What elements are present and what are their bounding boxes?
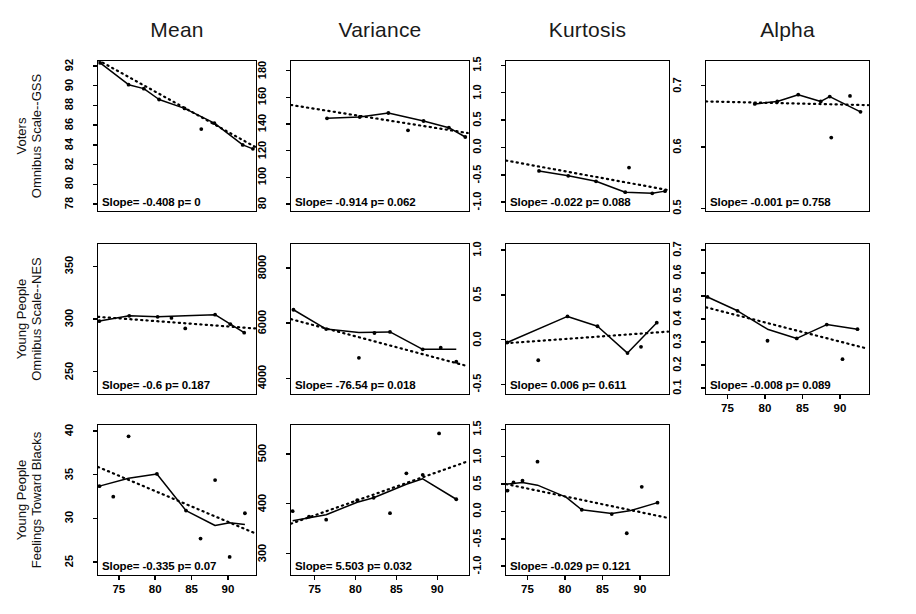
panel-kurtosis-row1[interactable]: Slope= 0.006 p= 0.611 [505, 243, 670, 395]
data-point [212, 121, 216, 125]
panel-kurtosis-row2[interactable]: Slope= -0.029 p= 0.121 [505, 424, 670, 576]
y-tick-mark [501, 119, 505, 120]
data-point [626, 351, 630, 355]
data-point [656, 501, 660, 505]
data-point [213, 313, 217, 317]
y-tick-label: 180 [256, 50, 268, 90]
y-tick-label: 0.5 [671, 187, 683, 227]
data-point [422, 119, 426, 123]
panel-variance-row2[interactable]: Slope= 5.503 p= 0.032 [290, 424, 470, 576]
smoothed-line [99, 474, 244, 526]
y-tick-mark [501, 339, 505, 340]
y-tick-mark [93, 65, 97, 66]
data-point [421, 473, 425, 477]
data-point [127, 83, 131, 87]
y-tick-mark [93, 371, 97, 372]
data-point [856, 327, 860, 331]
data-point [127, 314, 131, 318]
panel-mean-row2[interactable]: Slope= -0.335 p= 0.07 [97, 424, 257, 576]
y-tick-mark [701, 318, 705, 319]
y-tick-mark [701, 249, 705, 250]
y-tick-mark [286, 553, 290, 554]
regression-line [98, 61, 255, 147]
y-tick-label: 400 [256, 483, 268, 523]
plot-area [706, 61, 871, 213]
data-point [454, 497, 458, 501]
data-point [406, 128, 410, 132]
data-point [506, 489, 509, 493]
data-point [142, 87, 146, 91]
y-tick-mark [701, 208, 705, 209]
panel-variance-row1[interactable]: Slope= -76.54 p= 0.018 [290, 243, 470, 395]
x-tick-mark [355, 576, 356, 580]
regression-line [291, 105, 468, 133]
x-tick-label: 80 [749, 402, 781, 414]
plot-area [706, 244, 871, 396]
y-tick-mark [286, 97, 290, 98]
data-point [156, 315, 160, 319]
y-tick-label: -0.5 [471, 363, 483, 403]
data-point [439, 346, 443, 350]
data-point [111, 495, 115, 499]
slope-annotation: Slope= -0.6 p= 0.187 [102, 379, 210, 391]
y-tick-mark [286, 453, 290, 454]
y-tick-mark [286, 378, 290, 379]
y-tick-label: 30 [63, 497, 75, 537]
panel-variance-row0[interactable]: Slope= -0.914 p= 0.062 [290, 60, 470, 212]
data-point [537, 169, 541, 173]
data-point [292, 308, 296, 312]
plot-area [291, 425, 471, 577]
y-tick-mark [501, 456, 505, 457]
regression-line [291, 461, 468, 523]
panel-alpha-row1[interactable]: Slope= -0.008 p= 0.089 [705, 243, 870, 395]
y-tick-mark [93, 430, 97, 431]
x-tick-label: 90 [824, 402, 856, 414]
data-point [841, 357, 845, 361]
data-point [825, 323, 829, 327]
smoothed-line [327, 113, 465, 137]
x-tick-mark [437, 576, 438, 580]
data-point [421, 347, 425, 351]
data-point [228, 555, 232, 559]
y-tick-mark [93, 124, 97, 125]
y-tick-label: 0.7 [671, 229, 683, 269]
panel-alpha-row0[interactable]: Slope= -0.001 p= 0.758 [705, 60, 870, 212]
data-point [594, 179, 598, 183]
x-tick-mark [639, 576, 640, 580]
slope-annotation: Slope= 5.503 p= 0.032 [295, 560, 412, 572]
row-label-0: VotersOmnibus Scale--GSS [14, 48, 44, 224]
x-tick-label: 80 [139, 583, 171, 595]
slope-annotation: Slope= -0.335 p= 0.07 [102, 560, 216, 572]
data-point [324, 327, 328, 331]
data-point [623, 190, 627, 194]
data-point [795, 337, 799, 341]
panel-mean-row0[interactable]: Slope= -0.408 p= 0 [97, 60, 257, 212]
y-tick-mark [501, 511, 505, 512]
data-point [404, 471, 408, 475]
row-label-line1: Voters [14, 48, 29, 224]
row-label-line2: Feelings Toward Blacks [29, 412, 44, 588]
y-tick-mark [501, 174, 505, 175]
y-tick-mark [701, 387, 705, 388]
data-point [512, 481, 516, 485]
slope-annotation: Slope= 0.006 p= 0.611 [510, 379, 626, 391]
y-tick-mark [501, 65, 505, 66]
y-tick-mark [501, 429, 505, 430]
data-point [199, 127, 203, 131]
data-point [243, 511, 247, 515]
data-point [848, 94, 852, 98]
panel-mean-row1[interactable]: Slope= -0.6 p= 0.187 [97, 243, 257, 395]
data-point [596, 324, 600, 328]
y-tick-mark [501, 565, 505, 566]
data-point [251, 147, 255, 151]
data-point [184, 509, 188, 513]
y-tick-label: 4000 [256, 357, 268, 397]
panel-kurtosis-row0[interactable]: Slope= -0.022 p= 0.088 [505, 60, 670, 212]
data-point [775, 100, 779, 104]
y-tick-mark [701, 272, 705, 273]
x-tick-label: 90 [624, 583, 656, 595]
x-tick-mark [802, 395, 803, 399]
data-point [580, 508, 584, 512]
y-tick-mark [501, 483, 505, 484]
data-point [447, 126, 451, 130]
